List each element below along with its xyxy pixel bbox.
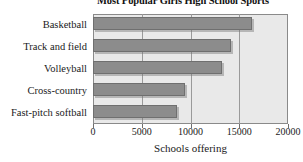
category-label: Volleyball xyxy=(44,63,87,74)
chart-figure: Most Popular Girls High School Sports Ba… xyxy=(0,0,303,162)
bars-layer xyxy=(93,14,288,124)
x-tick-label: 5000 xyxy=(132,126,152,137)
bar-row xyxy=(93,58,288,80)
bar xyxy=(93,17,252,30)
bar-row xyxy=(93,36,288,58)
bar xyxy=(93,83,185,96)
category-label: Basketball xyxy=(43,19,87,30)
bar xyxy=(93,61,222,74)
x-tick-label: 10000 xyxy=(178,126,203,137)
bar xyxy=(93,39,231,52)
x-tick-label: 0 xyxy=(91,126,96,137)
x-axis-title: Schools offering xyxy=(93,142,288,154)
bar xyxy=(93,105,177,118)
bar-row xyxy=(93,80,288,102)
plot-wrapper: BasketballTrack and fieldVolleyballCross… xyxy=(0,0,303,162)
category-label: Fast-pitch softball xyxy=(11,107,87,118)
bar-row xyxy=(93,102,288,124)
x-tick-label: 15000 xyxy=(227,126,252,137)
x-axis-tick-labels: 05000100001500020000 xyxy=(0,126,303,139)
x-tick-label: 20000 xyxy=(276,126,301,137)
bar-row xyxy=(93,14,288,36)
category-label: Track and field xyxy=(23,41,87,52)
category-label: Cross-country xyxy=(28,85,88,96)
category-axis-labels: BasketballTrack and fieldVolleyballCross… xyxy=(0,14,89,124)
